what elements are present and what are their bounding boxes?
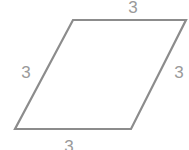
parallelogram-diagram: 3 3 3 3 xyxy=(0,0,189,150)
parallelogram-shape xyxy=(15,20,186,129)
right-side-label: 3 xyxy=(174,63,183,82)
top-side-label: 3 xyxy=(128,0,137,17)
left-side-label: 3 xyxy=(21,63,30,82)
bottom-side-label: 3 xyxy=(64,137,73,150)
